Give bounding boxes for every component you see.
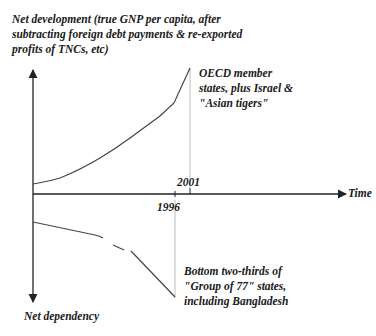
x-axis-label: Time bbox=[348, 186, 372, 201]
y-axis-bottom-label: Net dependency bbox=[24, 309, 99, 324]
lower-curve-label: Bottom two-thirds of "Group of 77" state… bbox=[184, 264, 289, 309]
y-axis-top-label: Net development (true GNP per capita, af… bbox=[12, 12, 242, 57]
upper-curve-label: OECD member states, plus Israel & "Asian… bbox=[199, 66, 293, 111]
upper-curve bbox=[33, 68, 190, 184]
lower-curve-dash bbox=[113, 245, 124, 250]
lower-curve-tail bbox=[131, 251, 175, 297]
lower-curve bbox=[33, 222, 103, 238]
tick-label-1996: 1996 bbox=[157, 200, 180, 215]
tick-label-2001: 2001 bbox=[177, 175, 200, 190]
